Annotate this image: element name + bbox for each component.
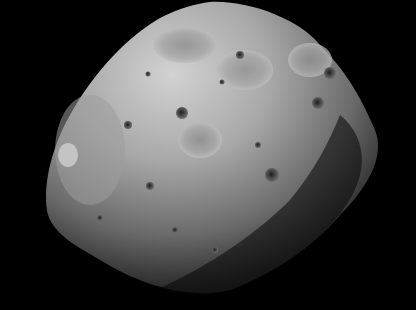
crater-pit <box>220 80 225 85</box>
space-background <box>0 0 416 310</box>
crater-pit <box>265 168 279 182</box>
crater-pit <box>97 215 103 221</box>
crater-pit <box>236 51 244 59</box>
crater-pit <box>124 121 132 129</box>
crater <box>178 122 222 158</box>
crater-pit <box>324 67 336 79</box>
crater-pit <box>146 72 151 77</box>
crater-pit <box>212 247 218 253</box>
crater-pit <box>255 142 261 148</box>
moon-illustration <box>0 0 416 310</box>
crater <box>217 50 273 90</box>
crater-pit <box>312 97 324 109</box>
crater <box>153 27 217 63</box>
crater-pit <box>146 182 154 190</box>
crater-pit <box>176 107 188 119</box>
crater-pit <box>172 227 178 233</box>
